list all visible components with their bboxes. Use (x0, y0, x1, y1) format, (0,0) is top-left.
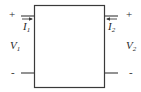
port1-voltage-subscript: 1 (17, 45, 21, 53)
port1-voltage-symbol: V (10, 39, 17, 51)
port2-plus-label: + (126, 9, 132, 20)
port2-current-label: I2 (108, 21, 115, 34)
two-port-network-diagram: + I1 V1 - + I2 V2 - (0, 0, 141, 92)
port2-minus-label: - (129, 67, 133, 78)
port1-current-label: I1 (23, 21, 30, 34)
port2-voltage-subscript: 2 (133, 45, 137, 53)
port2-current-subscript: 2 (112, 26, 116, 34)
port1-voltage-label: V1 (10, 40, 20, 53)
port1-minus-label: - (11, 67, 15, 78)
port1-current-subscript: 1 (27, 26, 31, 34)
port2-voltage-symbol: V (126, 39, 133, 51)
port2-voltage-label: V2 (126, 40, 136, 53)
network-box (35, 6, 105, 88)
diagram-canvas (0, 0, 141, 92)
port1-plus-label: + (9, 9, 15, 20)
